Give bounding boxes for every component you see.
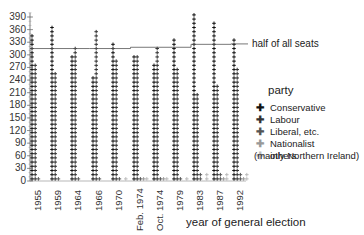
legend-title: party [268,84,294,96]
x-axis-label: year of general election [186,216,306,228]
y-tick-label: 180 [0,99,26,110]
y-tick-label: 150 [0,112,26,123]
y-tick-label: 90 [0,137,26,148]
x-tick-label: 1955 [32,190,43,211]
legend-item: ✚Conservative [256,102,325,113]
cross-marker-icon: ✚ [256,102,270,113]
y-tick-label: 240 [0,74,26,85]
legend-note: (mainly Northern Ireland) [254,150,359,161]
x-tick-label: 1992 [234,190,245,211]
y-tick-label: 330 [0,36,26,47]
y-tick-label: 210 [0,87,26,98]
cross-marker-icon: ✚ [256,126,270,137]
x-tick-label: 1983 [194,190,205,211]
y-tick-label: 30 [0,162,26,173]
legend-label: Liberal, etc. [270,126,319,137]
y-tick-label: 390 [0,11,26,22]
x-tick-label: 1966 [93,190,104,211]
x-tick-label: Feb. 1974 [134,188,145,231]
y-tick-label: 360 [0,24,26,35]
y-tick-label: 0 [0,175,26,186]
legend-item: ✚Nationalist [256,138,314,149]
x-tick-label: Oct. 1974 [154,190,165,231]
x-tick-label: 1964 [72,190,83,211]
legend-label: Conservative [270,102,325,113]
x-tick-label: 1970 [113,190,124,211]
half-seats-label: half of all seats [252,38,319,49]
cross-marker-icon: ✚ [256,114,270,125]
seats-chart: half of all seats party ✚Conservative✚La… [0,0,364,235]
y-tick-label: 300 [0,49,26,60]
y-tick-label: 120 [0,125,26,136]
x-tick-label: 1979 [174,190,185,211]
x-tick-label: 1987 [214,190,225,211]
legend-item: ✚Liberal, etc. [256,126,319,137]
legend-label: Nationalist [270,138,314,149]
x-tick-label: 1959 [52,190,63,211]
legend-item: ✚Labour [256,114,300,125]
cross-marker-icon: ✚ [256,138,270,149]
legend-label: Labour [270,114,300,125]
y-tick-label: 270 [0,61,26,72]
y-tick-label: 60 [0,150,26,161]
